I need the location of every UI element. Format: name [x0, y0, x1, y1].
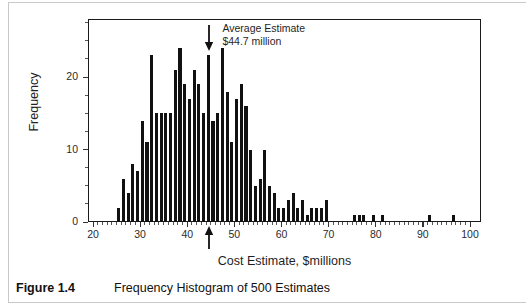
histogram-bar: [306, 215, 309, 222]
histogram-bar: [259, 179, 262, 223]
histogram-bar: [254, 186, 257, 222]
x-axis-major-tick: [93, 222, 94, 227]
histogram-bar: [197, 84, 200, 222]
x-axis-minor-tick: [102, 222, 103, 225]
x-axis-minor-tick: [163, 222, 164, 225]
down-arrow-icon: [203, 24, 215, 52]
up-arrow-icon: [203, 226, 215, 250]
x-axis-major-tick: [470, 222, 471, 227]
x-axis-minor-tick: [380, 222, 381, 225]
x-axis-minor-tick: [243, 222, 244, 225]
histogram-bar: [188, 99, 191, 222]
x-axis-tick-label: 20: [78, 228, 108, 240]
y-axis-minor-tick: [85, 22, 89, 23]
x-axis-tick-label: 40: [172, 228, 202, 240]
x-axis-tick-label: 90: [408, 228, 438, 240]
histogram-bar: [325, 200, 328, 222]
x-axis-tick-label: 70: [314, 228, 344, 240]
x-axis-minor-tick: [451, 222, 452, 225]
histogram-bar: [211, 121, 214, 223]
x-axis-minor-tick: [389, 222, 390, 225]
x-axis-minor-tick: [253, 222, 254, 225]
x-axis-minor-tick: [371, 222, 372, 225]
x-axis-minor-tick: [125, 222, 126, 225]
y-axis-title: Frequency: [27, 42, 41, 162]
histogram-bar: [287, 200, 290, 222]
histogram-bar: [131, 164, 134, 222]
x-axis-minor-tick: [135, 222, 136, 225]
histogram-bar: [315, 208, 318, 223]
x-axis-minor-tick: [408, 222, 409, 225]
y-axis-major-tick: [83, 149, 88, 150]
x-axis-minor-tick: [300, 222, 301, 225]
x-axis-minor-tick: [206, 222, 207, 225]
x-axis-minor-tick: [418, 222, 419, 225]
y-axis-tick-label: 0: [52, 216, 78, 227]
average-estimate-annotation: Average Estimate $44.7 million: [222, 22, 305, 47]
y-axis-tick-label: 20: [52, 71, 78, 82]
x-axis-minor-tick: [173, 222, 174, 225]
y-axis-tick-label: 10: [52, 144, 78, 155]
x-axis-major-tick: [187, 222, 188, 227]
frequency-histogram-figure: 01020 Frequency 2030405060708090100 Cost…: [0, 0, 528, 305]
x-axis-minor-tick: [404, 222, 405, 225]
x-axis-major-tick: [234, 222, 235, 227]
histogram-bar: [372, 215, 375, 222]
x-axis-major-tick: [281, 222, 282, 227]
x-axis-minor-tick: [130, 222, 131, 225]
x-axis-minor-tick: [239, 222, 240, 225]
y-axis-minor-tick: [85, 203, 89, 204]
histogram-bar: [164, 113, 167, 222]
x-axis-major-tick: [328, 222, 329, 227]
figure-caption: Figure 1.4Frequency Histogram of 500 Est…: [16, 281, 516, 295]
histogram-bar: [320, 208, 323, 223]
x-axis-minor-tick: [257, 222, 258, 225]
figure-page: 01020 Frequency 2030405060708090100 Cost…: [0, 0, 528, 305]
x-axis-minor-tick: [446, 222, 447, 225]
x-axis-minor-tick: [116, 222, 117, 225]
x-axis-minor-tick: [290, 222, 291, 225]
x-axis-minor-tick: [460, 222, 461, 225]
x-axis-minor-tick: [177, 222, 178, 225]
histogram-bar: [183, 84, 186, 222]
x-axis-tick-label: 30: [125, 228, 155, 240]
y-axis-minor-tick: [85, 185, 89, 186]
x-axis-minor-tick: [437, 222, 438, 225]
y-axis-minor-tick: [85, 40, 89, 41]
x-axis-minor-tick: [319, 222, 320, 225]
x-axis-tick-label: 50: [219, 228, 249, 240]
x-axis-minor-tick: [215, 222, 216, 225]
annotation-line-1: Average Estimate: [222, 22, 305, 35]
x-axis-major-tick: [375, 222, 376, 227]
x-axis-minor-tick: [97, 222, 98, 225]
y-axis-major-tick: [83, 77, 88, 78]
x-axis-minor-tick: [441, 222, 442, 225]
histogram-bar: [226, 92, 229, 223]
histogram-bars: [88, 19, 481, 222]
x-axis-minor-tick: [465, 222, 466, 225]
x-axis-minor-tick: [305, 222, 306, 225]
y-axis-minor-tick: [85, 167, 89, 168]
histogram-bar: [292, 193, 295, 222]
x-axis-minor-tick: [262, 222, 263, 225]
x-axis-minor-tick: [323, 222, 324, 225]
x-axis-minor-tick: [314, 222, 315, 225]
histogram-bar: [277, 208, 280, 223]
histogram-bar: [268, 186, 271, 222]
x-axis-minor-tick: [399, 222, 400, 225]
histogram-bar: [273, 193, 276, 222]
x-axis-minor-tick: [333, 222, 334, 225]
x-axis-major-tick: [140, 222, 141, 227]
histogram-bar: [207, 55, 210, 222]
x-axis-title: Cost Estimate, $millions: [88, 254, 481, 268]
x-axis-minor-tick: [144, 222, 145, 225]
x-axis-tick-label: 80: [361, 228, 391, 240]
histogram-bar: [145, 142, 148, 222]
x-axis-minor-tick: [210, 222, 211, 225]
histogram-bar: [296, 208, 299, 223]
x-axis-minor-tick: [182, 222, 183, 225]
histogram-bar: [169, 113, 172, 222]
histogram-bar: [235, 99, 238, 222]
x-axis-minor-tick: [342, 222, 343, 225]
histogram-bar: [155, 113, 158, 222]
